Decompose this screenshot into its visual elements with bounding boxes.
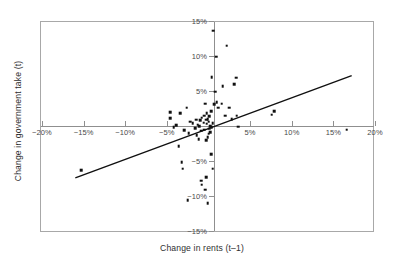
data-point — [235, 76, 238, 79]
data-point — [221, 85, 224, 88]
x-tick — [292, 121, 293, 126]
y-tick-label: −5% — [191, 157, 207, 166]
x-tick-label: −15% — [74, 128, 94, 137]
data-point — [208, 115, 211, 118]
x-tick-label: −10% — [115, 128, 135, 137]
y-tick-label: 10% — [192, 52, 207, 61]
data-point — [198, 125, 201, 128]
data-point — [186, 107, 189, 110]
data-point — [237, 125, 240, 128]
x-tick-label: −5% — [159, 128, 175, 137]
data-point — [205, 139, 208, 142]
data-point — [210, 153, 213, 156]
data-point — [211, 76, 214, 79]
x-tick — [167, 121, 168, 126]
data-point — [206, 136, 209, 139]
data-point — [203, 128, 206, 131]
data-point — [231, 118, 234, 121]
chart-root: −20%−15%−10%−5%5%10%15%20%15%10%5%−5%−10… — [0, 0, 404, 266]
data-point — [273, 110, 276, 113]
data-point — [214, 90, 217, 93]
y-axis-line — [214, 22, 215, 231]
y-tick — [209, 161, 214, 162]
data-point — [216, 101, 219, 104]
data-point — [199, 119, 202, 122]
x-tick — [250, 121, 251, 126]
x-tick — [375, 121, 376, 126]
x-tick-label: 5% — [245, 128, 256, 137]
data-point — [224, 114, 227, 117]
data-point — [211, 126, 214, 129]
data-point — [204, 102, 207, 105]
data-point — [202, 121, 205, 124]
data-point — [212, 30, 215, 33]
y-tick-label: 5% — [196, 87, 207, 96]
y-axis-title: Change in government take (t) — [13, 11, 23, 231]
data-point — [205, 176, 208, 179]
data-point — [195, 118, 198, 121]
data-point — [196, 134, 199, 137]
data-point — [345, 128, 348, 131]
x-tick — [125, 121, 126, 126]
data-point — [211, 167, 214, 170]
data-point — [200, 179, 203, 182]
data-point — [179, 112, 182, 115]
data-point — [201, 184, 204, 187]
data-point — [226, 44, 229, 47]
x-tick-label: 20% — [367, 128, 382, 137]
data-point — [169, 117, 172, 120]
y-tick-label: 15% — [192, 17, 207, 26]
x-tick-label: −20% — [32, 128, 52, 137]
x-tick — [333, 121, 334, 126]
y-tick-label: −15% — [187, 227, 207, 236]
data-point — [233, 83, 236, 86]
data-point — [80, 169, 83, 172]
data-point — [181, 167, 184, 170]
x-tick — [84, 121, 85, 126]
data-point — [211, 122, 214, 125]
x-tick-label: 15% — [326, 128, 341, 137]
data-point — [169, 111, 172, 114]
data-point — [206, 202, 209, 205]
data-point — [217, 107, 220, 110]
data-point — [270, 114, 273, 117]
data-point — [177, 145, 180, 148]
data-point — [228, 107, 231, 110]
y-tick — [209, 231, 214, 232]
data-point — [197, 138, 200, 141]
data-point — [207, 121, 210, 124]
data-point — [210, 110, 213, 113]
data-point — [194, 127, 197, 130]
data-point — [215, 55, 218, 58]
y-tick — [209, 56, 214, 57]
x-axis-title: Change in rents (t–1) — [0, 243, 404, 253]
x-tick — [42, 121, 43, 126]
data-point — [209, 131, 212, 134]
data-point — [175, 124, 178, 127]
y-tick — [209, 21, 214, 22]
data-point — [236, 114, 239, 117]
data-point — [221, 102, 224, 105]
data-point — [204, 188, 207, 191]
data-point — [183, 129, 186, 132]
x-tick-label: 10% — [284, 128, 299, 137]
data-point — [181, 161, 184, 164]
data-point — [200, 130, 203, 133]
data-point — [191, 122, 194, 125]
data-point — [187, 132, 190, 135]
data-point — [186, 199, 189, 202]
y-tick-label: −10% — [187, 192, 207, 201]
y-tick — [209, 196, 214, 197]
